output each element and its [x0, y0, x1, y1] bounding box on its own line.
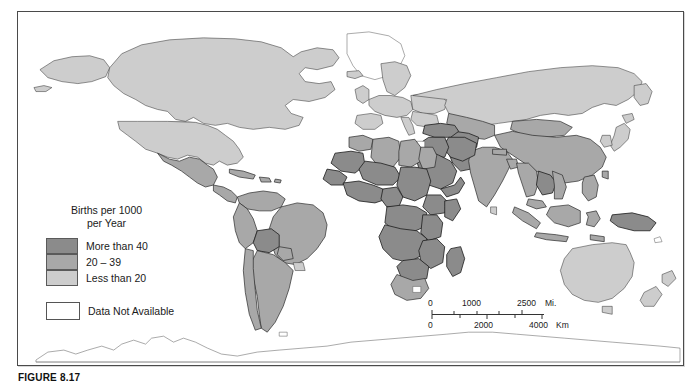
legend-title-line2: per Year [44, 217, 169, 230]
scale-km-labels: 0 2000 4000 Km [428, 320, 568, 331]
region-nepal [493, 149, 507, 155]
region-pacific-islands [654, 237, 662, 243]
region-somalia [445, 199, 461, 221]
scale-km-0: 0 [428, 320, 433, 330]
scale-mi-0: 0 [428, 298, 433, 308]
region-egypt [419, 147, 437, 169]
legend-item-no-data: Data Not Available [46, 302, 196, 320]
region-tasmania [602, 306, 612, 314]
region-lesotho [413, 286, 421, 292]
region-alaska [40, 56, 110, 84]
region-borneo [546, 205, 580, 227]
legend-swatch-no-data [46, 302, 80, 320]
legend-label-20-39: 20 – 39 [86, 256, 121, 268]
map-frame: .l{fill:#cdcdcd;stroke:#3a3a3a;stroke-wi… [17, 11, 684, 366]
region-papua-new-guinea [610, 213, 656, 231]
map-scale-bar: 0 1000 2500 Mi. 0 2000 [428, 298, 568, 331]
region-turkey [423, 123, 459, 137]
region-scandinavia [381, 62, 411, 96]
scale-tick-graphic [428, 309, 568, 320]
figure-world-birth-rate-map: .l{fill:#cdcdcd;stroke:#3a3a3a;stroke-wi… [0, 0, 698, 383]
legend-title-line1: Births per 1000 [44, 204, 169, 217]
scale-miles-labels: 0 1000 2500 Mi. [428, 298, 568, 309]
region-sumatra [513, 207, 541, 229]
region-kamchatka [634, 84, 652, 106]
region-russia [413, 66, 642, 126]
region-aleutians [34, 86, 52, 92]
region-korea [600, 135, 612, 147]
region-morocco [349, 135, 373, 151]
region-libya [399, 139, 421, 167]
scale-km-unit: Km [556, 320, 569, 330]
region-japan [610, 123, 630, 151]
region-new-zealand-north [662, 271, 676, 287]
region-puerto-rico [274, 179, 281, 183]
legend-title: Births per 1000 per Year [44, 204, 169, 229]
scale-mi-1000: 1000 [462, 298, 481, 308]
region-malaysia [526, 199, 546, 209]
region-uruguay [293, 263, 305, 271]
legend-item-20-39: 20 – 39 [46, 254, 196, 270]
region-philippines [582, 175, 598, 201]
region-bolivia [253, 229, 279, 253]
region-hokkaido [622, 113, 634, 123]
region-sulawesi [586, 211, 600, 227]
region-madagascar [447, 247, 465, 277]
legend-swatch-more-than-40 [46, 238, 78, 254]
region-india [469, 147, 513, 207]
region-new-zealand-south [640, 286, 662, 306]
map-legend: Births per 1000 per Year More than 40 20… [46, 204, 196, 320]
region-uk-ireland [355, 86, 369, 104]
scale-mi-unit: Mi. [545, 298, 556, 308]
legend-swatch-20-39 [46, 254, 78, 270]
region-iberia [355, 113, 383, 129]
region-taiwan [602, 171, 608, 179]
scale-km-2000: 2000 [474, 320, 493, 330]
region-drc-angola [379, 225, 427, 263]
legend-item-less-than-20: Less than 20 [46, 270, 196, 286]
figure-caption: FIGURE 8.17 [18, 372, 80, 383]
legend-label-no-data: Data Not Available [88, 305, 174, 317]
region-hispaniola [259, 177, 271, 182]
region-timor [590, 235, 604, 242]
region-australia [560, 243, 634, 303]
scale-km-4000: 4000 [529, 320, 548, 330]
region-antarctica [36, 332, 680, 362]
region-falklands [279, 332, 287, 336]
legend-label-less-than-20: Less than 20 [86, 272, 146, 284]
region-cuba [229, 169, 255, 179]
legend-item-more-than-40: More than 40 [46, 238, 196, 254]
legend-class-list: More than 40 20 – 39 Less than 20 [46, 238, 196, 286]
region-central-america [213, 185, 237, 203]
region-java [534, 233, 568, 242]
region-canada [108, 38, 339, 129]
legend-swatch-less-than-20 [46, 270, 78, 286]
scale-mi-2500: 2500 [517, 298, 536, 308]
legend-label-more-than-40: More than 40 [86, 240, 148, 252]
region-united-states [118, 121, 244, 165]
region-sri-lanka [491, 207, 497, 215]
